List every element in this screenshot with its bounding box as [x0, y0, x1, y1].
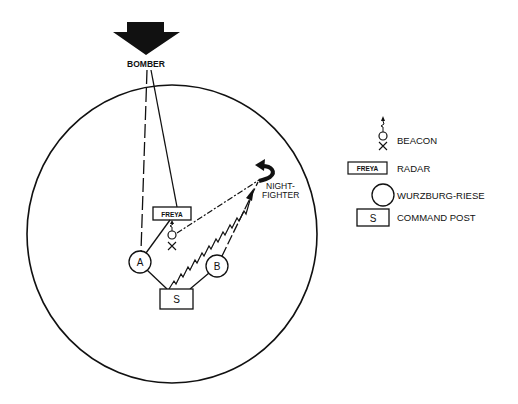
legend-beacon-x-icon: [379, 142, 387, 150]
legend-wurzburg-riese-label: WURZBURG-RIESE: [397, 190, 485, 201]
bomber-to-freya-line: [151, 70, 177, 207]
beacon-circle-icon: [168, 231, 176, 239]
beacon-x-icon: [168, 242, 176, 250]
bomber-to-wurzburg-a-line: [141, 70, 147, 251]
legend-item-radar: FREYA RADAR: [348, 162, 430, 174]
night-fighter-arrowhead-icon: [255, 159, 265, 171]
himmelbett-diagram: BOMBER FREYA A B S: [0, 0, 518, 404]
coverage-area-circle: [27, 85, 317, 383]
legend-wurzburg-riese-icon: [372, 184, 394, 206]
legend-item-beacon: BEACON: [379, 116, 437, 150]
freya-to-wurzburg-a-line: [146, 220, 170, 253]
wurzburg-a: A: [129, 251, 151, 273]
bomber-arrow-icon: [113, 22, 180, 55]
bomber: BOMBER: [113, 22, 180, 69]
command-post-label: S: [173, 294, 180, 305]
freya-label: FREYA: [161, 211, 183, 218]
legend-freya-icon-text: FREYA: [357, 165, 379, 172]
night-fighter: NIGHT- FIGHTER: [255, 159, 299, 200]
wurzburg-a-label: A: [137, 257, 144, 268]
legend-beacon-signal-icon: [381, 121, 384, 132]
legend-command-post-icon-text: S: [370, 213, 377, 224]
night-fighter-label-line2: FIGHTER: [262, 190, 299, 200]
freya-radar: FREYA: [153, 207, 191, 220]
command-post: S: [160, 289, 193, 309]
legend: BEACON FREYA RADAR WURZBURG-RIESE S COMM…: [348, 116, 485, 226]
wurzburg-a-to-command-post-line: [147, 270, 167, 289]
wurzburg-b: B: [206, 255, 228, 277]
beacon: [168, 220, 176, 250]
bomber-label: BOMBER: [127, 59, 165, 69]
legend-beacon-circle-icon: [379, 132, 387, 140]
legend-radar-label: RADAR: [397, 163, 430, 174]
radio-arrowhead-icon: [246, 188, 254, 201]
legend-beacon-label: BEACON: [397, 135, 437, 146]
legend-item-wurzburg-riese: WURZBURG-RIESE: [372, 184, 485, 206]
wurzburg-b-to-command-post-line: [190, 273, 209, 289]
legend-command-post-label: COMMAND POST: [397, 212, 476, 223]
legend-beacon-arrowhead-icon: [381, 116, 385, 121]
wurzburg-b-label: B: [214, 261, 221, 272]
legend-item-command-post: S COMMAND POST: [357, 209, 476, 226]
